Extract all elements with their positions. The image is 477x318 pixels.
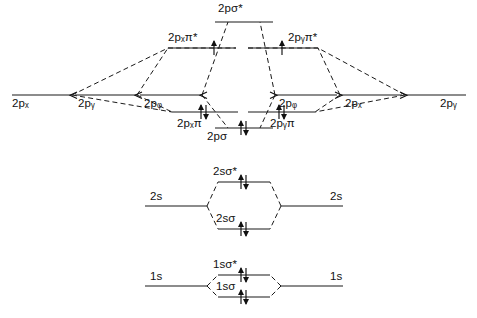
label-left-2pz: 2pᵩ [144, 98, 162, 110]
label-2p-sigma: 2pσ [207, 131, 227, 143]
label-2px-pi: 2pₓπ [177, 118, 202, 130]
label-2py-pi: 2pᵧπ [270, 118, 295, 130]
label-right-2pz: 2pᵩ [279, 98, 297, 110]
label-right-2s: 2s [330, 191, 342, 203]
label-left-2py: 2pᵧ [78, 98, 95, 110]
label-right-1s: 1s [330, 271, 342, 283]
label-2s-sigma: 2sσ [216, 213, 236, 225]
shell-1s [145, 267, 343, 305]
label-left-2s: 2s [150, 191, 162, 203]
label-2py-pi-star: 2pᵧπ* [288, 32, 317, 44]
label-2px-pi-star: 2pₓπ* [168, 32, 197, 44]
label-right-2py: 2pᵧ [440, 98, 457, 110]
label-left-1s: 1s [150, 271, 162, 283]
shell-2s [145, 174, 343, 237]
mo-diagram-svg [0, 0, 477, 318]
label-1s-sigma: 1sσ [216, 281, 236, 293]
label-right-2px: 2pₓ [345, 98, 362, 110]
label-left-2px: 2pₓ [12, 98, 29, 110]
correlation-lines-2p [70, 22, 407, 128]
mo-diagram-canvas: 2pσ* 2pₓπ* 2pᵧπ* 2pₓ 2pᵧ 2pᵩ 2pᵩ 2pₓ 2pᵧ… [0, 0, 477, 318]
label-2p-sigma-star: 2pσ* [218, 3, 243, 15]
label-2s-sigma-star: 2sσ* [213, 166, 237, 178]
label-1s-sigma-star: 1sσ* [213, 259, 237, 271]
